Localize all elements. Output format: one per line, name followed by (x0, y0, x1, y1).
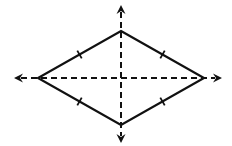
diagonals-group (21, 12, 215, 136)
rhombus-diagram (0, 0, 232, 146)
